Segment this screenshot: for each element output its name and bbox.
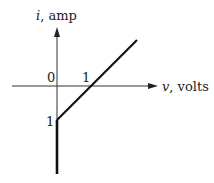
iv-chart: i, amp v, volts 0 1 1	[0, 0, 214, 183]
x-axis-arrow-icon	[148, 83, 158, 89]
x-axis-label: v, volts	[162, 79, 209, 94]
origin-label: 0	[47, 70, 55, 85]
y-axis-label: i, amp	[36, 8, 77, 23]
y-tick-label: 1	[46, 114, 54, 129]
y-axis-arrow-icon	[54, 27, 60, 37]
x-tick-label: 1	[82, 70, 90, 85]
sloped-segment	[57, 40, 137, 120]
